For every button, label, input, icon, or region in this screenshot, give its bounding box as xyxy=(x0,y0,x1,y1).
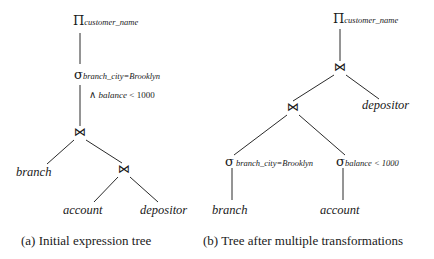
select-subscript-attribute: branch_city xyxy=(83,71,124,81)
node-b-project: Πcustomer_name xyxy=(333,12,398,25)
select-subscript-value: =Brooklyn xyxy=(276,158,313,168)
select-symbol: σ xyxy=(74,67,83,82)
edge-a-joinlower-depositor xyxy=(130,177,158,202)
select-subscript-attribute: balance xyxy=(345,158,372,168)
condition-attribute: balance xyxy=(99,90,128,100)
edge-a-joinlower-account xyxy=(94,177,118,202)
edge-b-joinlower-selbranch xyxy=(234,115,287,155)
node-b-select-branch-city: σbranch_city=Brooklyn xyxy=(225,155,313,168)
node-a-relation-branch: branch xyxy=(16,166,51,179)
tree-edges xyxy=(0,0,434,259)
node-a-select: σbranch_city=Brooklyn xyxy=(74,68,160,81)
condition-value: < 1000 xyxy=(127,90,155,100)
project-symbol: Π xyxy=(333,11,344,26)
select-subscript-value: < 1000 xyxy=(372,158,399,168)
node-b-relation-depositor: depositor xyxy=(362,99,409,112)
edge-a-join-branch xyxy=(47,140,74,164)
caption-tree-b: (b) Tree after multiple transformations xyxy=(203,234,403,247)
node-b-relation-branch: branch xyxy=(212,204,247,217)
node-a-relation-account: account xyxy=(63,204,103,217)
node-a-select-condition-line2: ∧ balance < 1000 xyxy=(89,90,155,100)
select-symbol: σ xyxy=(336,154,345,169)
select-subscript-attribute: branch_city xyxy=(236,158,277,168)
project-symbol: Π xyxy=(73,13,84,28)
node-b-relation-account: account xyxy=(320,204,360,217)
node-b-select-balance: σbalance < 1000 xyxy=(336,155,399,168)
node-a-join-upper: ⋈ xyxy=(74,126,86,138)
caption-tree-a: (a) Initial expression tree xyxy=(21,234,151,247)
select-subscript-value: =Brooklyn xyxy=(123,71,160,81)
project-subscript: customer_name xyxy=(344,15,398,25)
node-a-project: Πcustomer_name xyxy=(73,14,138,27)
project-subscript: customer_name xyxy=(84,17,138,27)
node-a-join-lower: ⋈ xyxy=(118,163,130,175)
node-b-join-lower: ⋈ xyxy=(287,101,299,113)
edge-b-join-depositor xyxy=(346,75,379,99)
node-a-relation-depositor: depositor xyxy=(140,204,187,217)
node-b-join-upper: ⋈ xyxy=(334,61,346,73)
select-symbol: σ xyxy=(225,154,234,169)
edge-a-join-joinlower xyxy=(86,140,122,163)
figure-relational-algebra-trees: Πcustomer_name σbranch_city=Brooklyn ∧ b… xyxy=(0,0,434,259)
edge-b-joinlower-selbalance xyxy=(299,115,345,155)
edge-b-join-joinlower xyxy=(293,75,334,101)
and-symbol: ∧ xyxy=(89,89,96,100)
